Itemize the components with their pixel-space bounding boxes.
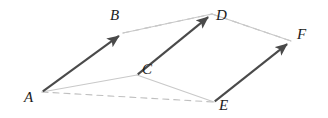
edge-AC bbox=[42, 75, 137, 92]
edge-BD bbox=[123, 14, 212, 33]
hidden-edges-group bbox=[42, 14, 291, 102]
vertex-label-e: E bbox=[219, 98, 228, 113]
vector-AB bbox=[43, 36, 119, 91]
vector-EF bbox=[215, 44, 287, 101]
vector-arrows-group bbox=[43, 17, 287, 101]
figure-container: ABCDEF bbox=[0, 0, 328, 118]
vertex-label-a: A bbox=[24, 90, 33, 105]
edge-CE bbox=[137, 75, 214, 102]
vertex-label-f: F bbox=[297, 27, 306, 42]
vertex-label-c: C bbox=[142, 62, 152, 77]
parallelepiped-diagram bbox=[0, 0, 328, 118]
visible-edges-group bbox=[42, 14, 291, 102]
vertex-label-b: B bbox=[110, 8, 119, 23]
vertex-label-d: D bbox=[216, 8, 227, 23]
